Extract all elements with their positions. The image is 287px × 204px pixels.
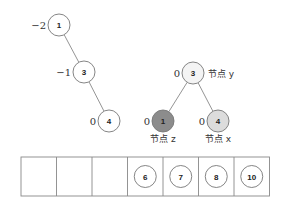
balance-factor: 0 [144, 116, 150, 127]
tree-edge [198, 83, 213, 111]
tree-node: 1−2 [31, 14, 70, 36]
cell-value: 10 [247, 173, 256, 182]
tree-edge [89, 82, 104, 111]
tree-edge [169, 82, 187, 111]
tree-nodes: 1−23−14030节点 y10节点 z40节点 x [31, 14, 235, 144]
tree-node: 40节点 x [199, 110, 232, 144]
node-key: 3 [191, 69, 196, 78]
tree-node: 3−1 [56, 61, 95, 83]
tree-node: 30节点 y [174, 62, 235, 84]
node-key: 4 [216, 117, 221, 126]
node-key: 3 [82, 68, 87, 77]
node-label: 节点 x [205, 134, 232, 144]
tree-node: 40 [90, 110, 120, 132]
node-key: 1 [161, 117, 166, 126]
tree-edge [64, 35, 79, 63]
cell-value: 6 [143, 173, 148, 182]
balance-factor: 0 [90, 116, 96, 127]
array-cell: 7 [170, 166, 192, 188]
cell-value: 8 [214, 173, 219, 182]
node-label: 节点 y [208, 69, 235, 79]
balance-factor: −1 [56, 67, 71, 78]
balance-factor: −2 [31, 20, 46, 31]
array-cell: 8 [205, 166, 227, 188]
array-cell: 6 [134, 166, 156, 188]
node-key: 1 [57, 21, 62, 30]
avl-rotation-diagram: 1−23−14030节点 y10节点 z40节点 x 67810 [0, 0, 287, 204]
cell-value: 7 [179, 173, 184, 182]
node-label: 节点 z [150, 134, 176, 144]
array-row: 67810 [21, 157, 270, 196]
tree-node: 10节点 z [144, 110, 176, 144]
node-key: 4 [107, 117, 112, 126]
balance-factor: 0 [174, 68, 180, 79]
balance-factor: 0 [199, 116, 205, 127]
array-cell: 10 [241, 166, 263, 188]
